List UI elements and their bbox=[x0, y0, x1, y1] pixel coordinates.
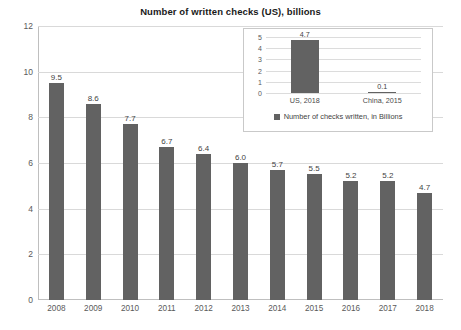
bar-value-label: 6.4 bbox=[198, 144, 209, 153]
bar-value-label: 6.7 bbox=[161, 137, 172, 146]
inset-legend-label: Number of checks written, in Billions bbox=[284, 112, 403, 121]
chart-container: Number of written checks (US), billions … bbox=[0, 0, 461, 330]
inset-bar-value-label: 4.7 bbox=[300, 30, 310, 39]
bar-value-label: 6.0 bbox=[235, 153, 246, 162]
bar-value-label: 5.2 bbox=[382, 171, 393, 180]
inset-bar bbox=[368, 92, 396, 94]
bar-value-label: 5.2 bbox=[345, 171, 356, 180]
inset-legend: Number of checks written, in Billions bbox=[244, 112, 432, 121]
bar bbox=[343, 181, 358, 300]
x-tick-label: 2014 bbox=[268, 304, 286, 313]
bar-value-label: 4.7 bbox=[419, 183, 430, 192]
bar bbox=[417, 193, 432, 300]
inset-chart: 012345 4.70.1 US, 2018China, 2015 Number… bbox=[243, 28, 433, 132]
x-tick-label: 2011 bbox=[158, 304, 176, 313]
inset-y-tick-label: 3 bbox=[258, 56, 262, 63]
bar bbox=[307, 174, 322, 300]
inset-y-tick-label: 4 bbox=[258, 45, 262, 52]
bar-value-label: 5.7 bbox=[272, 160, 283, 169]
bar bbox=[270, 170, 285, 300]
x-tick-label: 2017 bbox=[379, 304, 397, 313]
y-tick-label: 0 bbox=[28, 295, 33, 305]
bar-value-label: 5.5 bbox=[309, 164, 320, 173]
inset-gridline bbox=[266, 59, 421, 60]
bar-value-label: 9.5 bbox=[51, 73, 62, 82]
x-tick-label: 2009 bbox=[84, 304, 102, 313]
x-tick-label: 2010 bbox=[121, 304, 139, 313]
inset-y-tick-label: 0 bbox=[258, 90, 262, 97]
inset-bar bbox=[291, 40, 319, 93]
bar bbox=[380, 181, 395, 300]
inset-y-tick-label: 1 bbox=[258, 78, 262, 85]
bar-value-label: 8.6 bbox=[88, 94, 99, 103]
y-tick-label: 12 bbox=[24, 21, 33, 31]
x-tick-label: 2008 bbox=[47, 304, 65, 313]
inset-gridline bbox=[266, 48, 421, 49]
y-tick-label: 2 bbox=[28, 249, 33, 259]
inset-gridline bbox=[266, 82, 421, 83]
inset-bar-value-label: 0.1 bbox=[377, 82, 387, 91]
y-tick-label: 4 bbox=[28, 204, 33, 214]
inset-gridline bbox=[266, 71, 421, 72]
y-tick-label: 8 bbox=[28, 112, 33, 122]
inset-gridline bbox=[266, 93, 421, 94]
chart-title: Number of written checks (US), billions bbox=[0, 6, 461, 17]
bar bbox=[159, 147, 174, 300]
x-tick-label: 2015 bbox=[305, 304, 323, 313]
x-tick-label: 2016 bbox=[342, 304, 360, 313]
bar bbox=[123, 124, 138, 300]
bar bbox=[233, 163, 248, 300]
bar-value-label: 7.7 bbox=[124, 114, 135, 123]
x-tick-label: 2018 bbox=[415, 304, 433, 313]
x-tick-label: 2012 bbox=[195, 304, 213, 313]
legend-swatch-icon bbox=[274, 114, 280, 120]
inset-plot-area: 012345 4.70.1 US, 2018China, 2015 bbox=[266, 37, 421, 93]
inset-x-tick-label: US, 2018 bbox=[290, 96, 320, 105]
gridline bbox=[38, 26, 443, 27]
bar bbox=[196, 154, 211, 300]
y-tick-label: 6 bbox=[28, 158, 33, 168]
y-tick-label: 10 bbox=[24, 67, 33, 77]
x-tick-label: 2013 bbox=[231, 304, 249, 313]
inset-y-tick-label: 2 bbox=[258, 67, 262, 74]
inset-x-tick-label: China, 2015 bbox=[363, 96, 402, 105]
bar bbox=[49, 83, 64, 300]
bar bbox=[86, 104, 101, 300]
inset-gridline bbox=[266, 37, 421, 38]
inset-y-tick-label: 5 bbox=[258, 34, 262, 41]
